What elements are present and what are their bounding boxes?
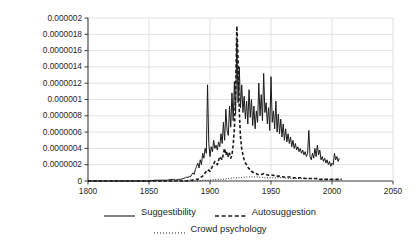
legend-swatch-dotted-icon xyxy=(153,224,186,234)
legend-item[interactable]: Suggestibility xyxy=(103,207,196,217)
legend-label: Crowd psychology xyxy=(191,224,267,234)
chart-legend: SuggestibilityAutosuggestionCrowd psycho… xyxy=(0,203,419,237)
chart-container: Percent of words 00.00000020.00000040.00… xyxy=(0,0,419,250)
legend-swatch-solid-icon xyxy=(103,207,136,217)
legend-swatch-dashed-icon xyxy=(214,207,247,217)
series-line-suggestibility xyxy=(88,41,339,181)
legend-row: Crowd psychology xyxy=(0,220,419,237)
legend-label: Autosuggestion xyxy=(252,207,316,217)
legend-item[interactable]: Crowd psychology xyxy=(153,224,267,234)
legend-label: Suggestibility xyxy=(141,207,196,217)
series-line-autosuggestion xyxy=(88,26,342,181)
legend-item[interactable]: Autosuggestion xyxy=(214,207,316,217)
legend-row: SuggestibilityAutosuggestion xyxy=(0,203,419,220)
